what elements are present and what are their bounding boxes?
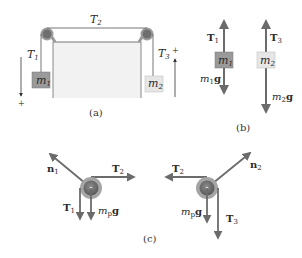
pulley-right — [139, 28, 154, 43]
pulley-left — [41, 28, 56, 43]
fbd-pulley-left: n1 T2 T1 mpg — [47, 154, 134, 219]
caption-b: (b) — [236, 122, 250, 133]
label-T3-c: T3 — [226, 213, 238, 226]
label-m1g-b: m1g — [200, 73, 221, 86]
plus-sign-right: + — [172, 46, 179, 55]
plus-sign-left: + — [18, 99, 25, 108]
caption-a: (a) — [89, 107, 103, 118]
panel-c: n1 T2 T1 mpg T2 n2 mpg T3 (c) — [47, 153, 262, 244]
panel-b: m1 T1 m1g m2 T3 m2g (b) — [200, 21, 293, 133]
caption-c: (c) — [143, 233, 157, 244]
label-mpg-left: mpg — [98, 205, 119, 218]
label-n1: n1 — [47, 163, 59, 176]
block-m2: m2 — [145, 76, 163, 92]
atwood-table-diagram: m1 m2 T2 T1 T3 + + (a) m1 T1 m1g m2 T3 m… — [0, 0, 302, 258]
label-T2-right: T2 — [172, 163, 184, 176]
table — [53, 42, 141, 98]
label-n2: n2 — [250, 159, 262, 172]
block-m1: m1 — [32, 72, 51, 88]
label-T2: T2 — [90, 13, 102, 27]
label-m2g-b: m2g — [272, 91, 293, 104]
fbd-pulley-right: T2 n2 mpg T3 — [166, 153, 262, 238]
label-mpg-right: mpg — [181, 206, 202, 219]
label-T3-b: T3 — [270, 32, 282, 45]
label-T1-b: T1 — [207, 32, 219, 45]
panel-a: m1 m2 T2 T1 T3 + + (a) — [18, 13, 179, 118]
label-T3: T3 — [158, 47, 170, 61]
label-T1-c: T1 — [63, 202, 75, 215]
label-T2-left: T2 — [112, 163, 124, 176]
label-T1: T1 — [27, 48, 39, 62]
